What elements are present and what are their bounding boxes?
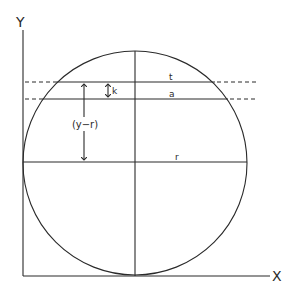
upper-chord-label: t [169,72,173,82]
x-axis-label: X [272,268,282,284]
height-label: (y−r) [72,119,98,130]
lower-chord-label: a [169,89,175,99]
radius-label: r [175,152,179,162]
y-axis-label: Y [15,14,25,30]
circle-chord-diagram: Y X (y−r) k t a r [0,0,295,292]
gap-label: k [112,86,118,96]
